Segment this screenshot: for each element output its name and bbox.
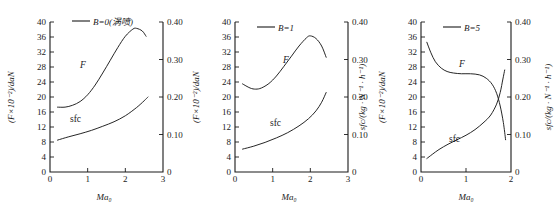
chart-svg-2: 0481216202428323640 00.100.200.300.40 01… xyxy=(185,0,371,211)
svg-text:0: 0 xyxy=(418,174,423,184)
curve-sfc-2 xyxy=(243,93,327,150)
svg-text:0.20: 0.20 xyxy=(515,92,531,102)
x-ticks-3: 012 xyxy=(418,168,513,184)
svg-text:2: 2 xyxy=(123,174,128,184)
svg-text:0: 0 xyxy=(352,167,357,177)
svg-text:0.10: 0.10 xyxy=(515,130,531,140)
axes-1 xyxy=(50,22,163,172)
x-ticks-2: 0123 xyxy=(233,168,351,184)
svg-text:0: 0 xyxy=(227,167,232,177)
svg-text:16: 16 xyxy=(222,107,232,117)
svg-text:0.40: 0.40 xyxy=(515,17,531,27)
x-axis-title-3: Ma₀ xyxy=(457,192,473,202)
chart-panel-3: 0481216202428323640 00.100.200.300.40 01… xyxy=(371,0,556,211)
svg-text:0.40: 0.40 xyxy=(352,17,368,27)
svg-text:28: 28 xyxy=(222,62,232,72)
svg-text:12: 12 xyxy=(222,122,231,132)
left-ticks-3: 0481216202428323640 xyxy=(408,17,425,177)
svg-text:0: 0 xyxy=(515,167,520,177)
svg-text:24: 24 xyxy=(37,77,47,87)
svg-text:2: 2 xyxy=(308,174,313,184)
svg-text:40: 40 xyxy=(408,17,418,27)
svg-text:32: 32 xyxy=(37,47,46,57)
curve-sfc-3 xyxy=(427,70,505,159)
axis-frame-2 xyxy=(235,22,348,172)
svg-text:0: 0 xyxy=(48,174,53,184)
svg-text:0: 0 xyxy=(42,167,47,177)
y-axis-title-right-3: sfc/(kg · N⁻¹ · h⁻¹) xyxy=(543,64,553,130)
svg-text:0.30: 0.30 xyxy=(167,55,183,65)
svg-text:16: 16 xyxy=(37,107,47,117)
x-axis-title-2: Ma₀ xyxy=(281,192,297,202)
svg-text:24: 24 xyxy=(408,77,418,87)
x-axis-title-1: Ma₀ xyxy=(95,192,111,202)
svg-text:0.40: 0.40 xyxy=(167,17,183,27)
chart-svg-1: 0481216202428323640 00.100.200.300.40 01… xyxy=(0,0,186,211)
curve-label-thrust-2: F xyxy=(282,55,289,65)
svg-text:3: 3 xyxy=(346,174,351,184)
svg-text:12: 12 xyxy=(37,122,46,132)
svg-text:36: 36 xyxy=(408,32,418,42)
svg-text:32: 32 xyxy=(222,47,231,57)
svg-text:4: 4 xyxy=(227,152,232,162)
x-ticks-1: 0123 xyxy=(48,168,166,184)
svg-text:0.20: 0.20 xyxy=(167,92,183,102)
legend-label-1: B=0(涡喷) xyxy=(93,17,133,27)
svg-text:28: 28 xyxy=(408,62,418,72)
curve-label-thrust-1: F xyxy=(79,60,86,70)
axis-frame-1 xyxy=(50,22,163,172)
svg-text:1: 1 xyxy=(85,174,90,184)
svg-text:36: 36 xyxy=(222,32,232,42)
svg-text:36: 36 xyxy=(37,32,47,42)
legend-label-2: B=1 xyxy=(278,23,294,33)
curve-label-sfc-3: sfc xyxy=(449,134,460,144)
curve-label-sfc-1: sfc xyxy=(70,114,81,124)
curve-label-thrust-3: F xyxy=(458,59,465,69)
left-ticks-2: 0481216202428323640 xyxy=(222,17,239,177)
chart-panel-2: 0481216202428323640 00.100.200.300.40 01… xyxy=(185,0,370,211)
y-axis-title-left-2: (F×10⁻²)/daN xyxy=(191,70,201,123)
svg-text:0.10: 0.10 xyxy=(352,130,368,140)
svg-text:0.30: 0.30 xyxy=(515,55,531,65)
y-axis-title-left-1: (F×10⁻²)/daN xyxy=(6,70,16,123)
svg-text:0: 0 xyxy=(167,167,172,177)
svg-text:8: 8 xyxy=(227,137,232,147)
y-axis-title-right-1: sfc/(kg · N⁻¹ · h⁻¹) xyxy=(357,64,367,130)
svg-text:28: 28 xyxy=(37,62,47,72)
svg-text:1: 1 xyxy=(463,174,468,184)
curve-thrust-3 xyxy=(427,42,506,140)
svg-text:0: 0 xyxy=(233,174,238,184)
svg-text:32: 32 xyxy=(408,47,417,57)
curve-thrust-1 xyxy=(58,28,147,107)
svg-text:40: 40 xyxy=(37,17,47,27)
svg-text:0: 0 xyxy=(412,167,417,177)
svg-text:1: 1 xyxy=(271,174,276,184)
svg-text:20: 20 xyxy=(222,92,232,102)
svg-text:12: 12 xyxy=(408,122,417,132)
svg-text:0.30: 0.30 xyxy=(352,55,368,65)
svg-text:2: 2 xyxy=(508,174,513,184)
legend-label-3: B=5 xyxy=(464,23,481,33)
curve-label-sfc-2: sfc xyxy=(270,118,281,128)
svg-text:0.10: 0.10 xyxy=(167,130,183,140)
svg-text:3: 3 xyxy=(161,174,166,184)
svg-text:20: 20 xyxy=(37,92,47,102)
svg-text:16: 16 xyxy=(408,107,418,117)
svg-text:8: 8 xyxy=(412,137,417,147)
y-axis-title-left-3: (F×10⁻²)/daN xyxy=(377,70,387,123)
svg-text:24: 24 xyxy=(222,77,232,87)
svg-text:20: 20 xyxy=(408,92,418,102)
svg-text:4: 4 xyxy=(42,152,47,162)
chart-svg-3: 0481216202428323640 00.100.200.300.40 01… xyxy=(371,0,556,211)
left-ticks-1: 0481216202428323640 xyxy=(37,17,54,177)
figure-row: 0481216202428323640 00.100.200.300.40 01… xyxy=(0,0,556,211)
svg-text:4: 4 xyxy=(412,152,417,162)
axes-2 xyxy=(235,22,348,172)
svg-text:40: 40 xyxy=(222,17,232,27)
chart-panel-1: 0481216202428323640 00.100.200.300.40 01… xyxy=(0,0,185,211)
svg-text:8: 8 xyxy=(42,137,47,147)
